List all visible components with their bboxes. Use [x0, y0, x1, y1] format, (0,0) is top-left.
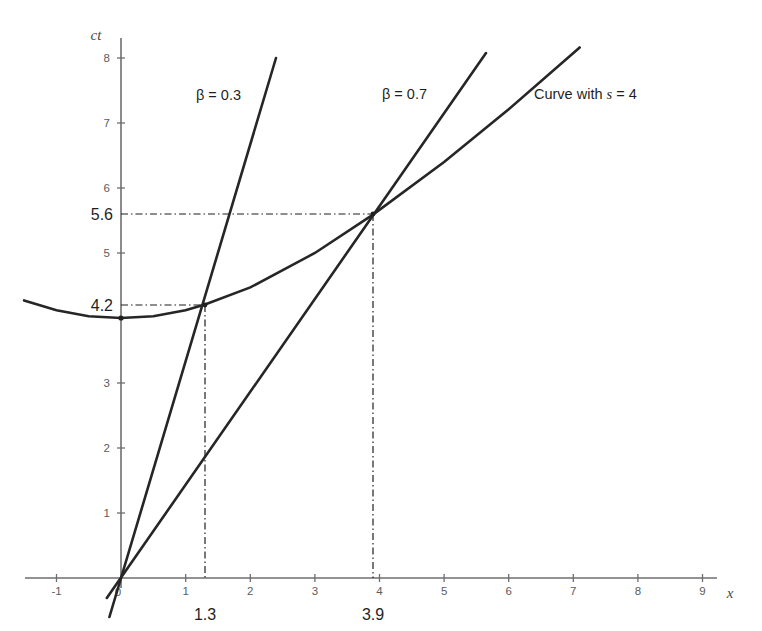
series-line-beta-0-3 — [109, 58, 276, 617]
series-label-beta-0-3: β = 0.3 — [196, 87, 241, 103]
curve-s4-prefix: Curve with — [534, 86, 607, 102]
x-tick-label-8: 8 — [635, 585, 641, 597]
x-tick-label-4: 4 — [376, 585, 383, 597]
x-tick-label-3: 3 — [312, 585, 318, 597]
value-label-1-3: 1.3 — [194, 606, 216, 623]
series-label-curve-s4: Curve with s = 4 — [534, 86, 637, 102]
series-line-beta-0-7 — [107, 53, 486, 598]
x-tick-label--1: -1 — [51, 585, 61, 597]
y-axis-title: ct — [91, 27, 103, 43]
value-label-5-6: 5.6 — [91, 206, 113, 223]
y-tick-label-3: 3 — [104, 377, 110, 389]
x-tick-label-7: 7 — [570, 585, 576, 597]
series-label-beta-0-7: β = 0.7 — [382, 86, 427, 102]
marker-dot-intersection-1-3 — [203, 303, 208, 308]
x-tick-label-5: 5 — [441, 585, 447, 597]
x-tick-label-1: 1 — [182, 585, 188, 597]
minkowski-spacetime-chart: -1 0 1 2 3 4 5 6 7 8 9 1 2 3 5 — [0, 0, 762, 631]
axes-group — [25, 38, 717, 588]
y-tick-labels: 1 2 3 5 6 7 8 — [104, 52, 110, 519]
y-tick-label-7: 7 — [104, 117, 110, 129]
value-label-3-9: 3.9 — [362, 606, 384, 623]
value-label-4-2: 4.2 — [91, 297, 113, 314]
series-label-beta-0-3-text: β = 0.3 — [196, 87, 241, 103]
x-axis-title: x — [726, 585, 734, 601]
y-tick-label-6: 6 — [104, 182, 110, 194]
marker-dot-vertex — [118, 315, 123, 320]
y-tick-label-1: 1 — [104, 507, 110, 519]
curve-s4-suffix: = 4 — [612, 86, 637, 102]
x-tick-label-6: 6 — [505, 585, 511, 597]
series-label-beta-0-7-text: β = 0.7 — [382, 86, 427, 102]
chart-svg: -1 0 1 2 3 4 5 6 7 8 9 1 2 3 5 — [0, 0, 762, 631]
y-tick-label-8: 8 — [104, 52, 110, 64]
x-tick-labels: -1 0 1 2 3 4 5 6 7 8 9 — [51, 585, 705, 598]
marker-dot-intersection-3-9 — [371, 212, 376, 217]
x-tick-label-2: 2 — [247, 585, 253, 597]
y-tick-label-2: 2 — [104, 442, 110, 454]
x-tick-label-9: 9 — [699, 585, 705, 597]
y-tick-label-5: 5 — [104, 247, 110, 259]
